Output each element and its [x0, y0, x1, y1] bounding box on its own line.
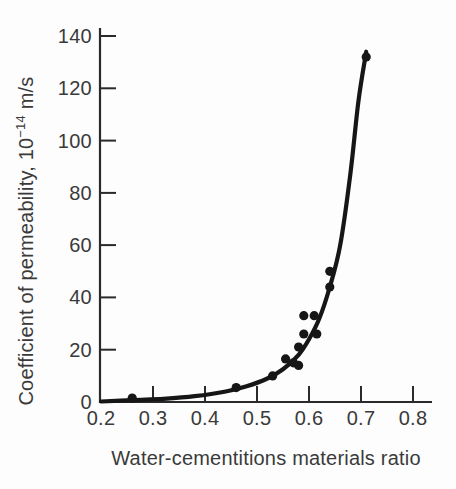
x-tick-label: 0.7: [347, 407, 376, 429]
y-tick-label: 100: [58, 130, 92, 152]
y-axis-title-text: Coefficient of permeability, 10: [15, 138, 37, 406]
data-point: [294, 361, 303, 370]
data-point: [325, 282, 334, 291]
data-point: [362, 52, 371, 61]
y-axis-title-units: m/s: [15, 76, 37, 115]
y-tick-label: 80: [69, 182, 92, 204]
data-point: [299, 329, 308, 338]
data-point: [268, 371, 277, 380]
data-point: [294, 343, 303, 352]
data-point: [310, 311, 319, 320]
data-point: [325, 267, 334, 276]
x-tick-label: 0.2: [87, 407, 116, 429]
y-tick-label: 60: [69, 234, 92, 256]
y-tick-label: 140: [58, 25, 92, 47]
data-point: [281, 354, 290, 363]
y-tick-label: 20: [69, 339, 92, 361]
data-point: [232, 383, 241, 392]
x-tick-label: 0.6: [295, 407, 324, 429]
data-point: [312, 329, 321, 338]
y-tick-label: 120: [58, 77, 92, 99]
trend-curve: [101, 52, 366, 402]
y-tick-label: 40: [69, 286, 92, 308]
x-tick-label: 0.8: [399, 407, 428, 429]
data-point: [299, 311, 308, 320]
x-tick-label: 0.5: [243, 407, 272, 429]
x-tick-label: 0.3: [139, 407, 168, 429]
x-axis-title: Water-cementitions materials ratio: [100, 447, 432, 470]
data-point: [128, 394, 137, 403]
x-tick-label: 0.4: [191, 407, 220, 429]
y-axis-title: Coefficient of permeability, 10−14 m/s: [15, 76, 38, 405]
axis-spines: [100, 28, 432, 402]
y-axis-title-exponent: −14: [13, 115, 28, 138]
chart-canvas: 0204060801001201400.20.30.40.50.60.70.8: [0, 0, 456, 489]
permeability-vs-wc-ratio-figure: 0204060801001201400.20.30.40.50.60.70.8 …: [0, 0, 456, 489]
